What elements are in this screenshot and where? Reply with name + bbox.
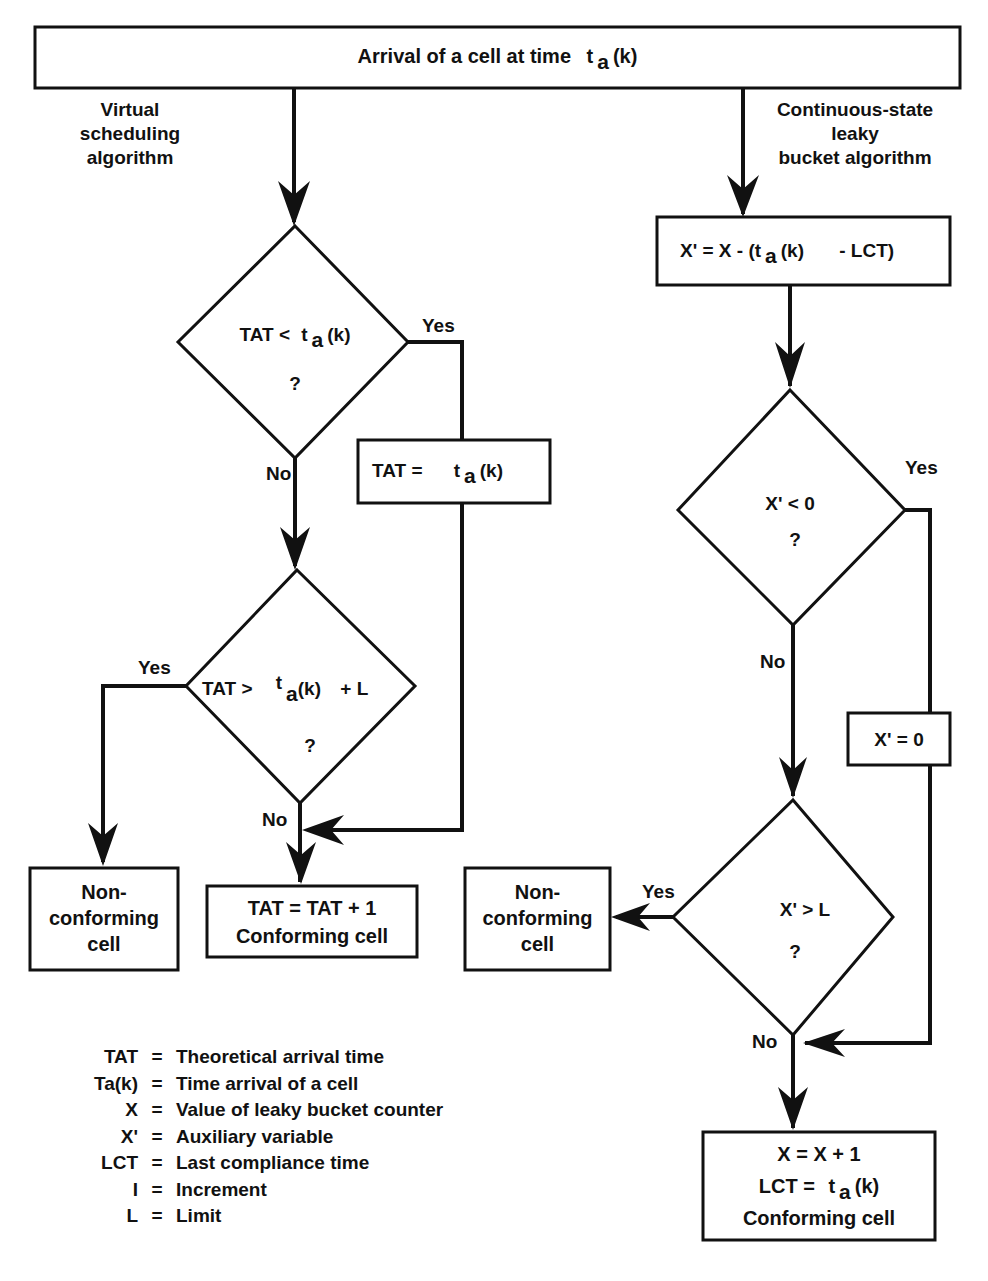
start-label: Arrival of a cell at time ta(k) bbox=[35, 44, 960, 68]
conforming-right-text: X = X + 1 LCT = ta(k) Conforming cell bbox=[703, 1138, 935, 1234]
set-tat-text: TAT = ta(k) bbox=[372, 458, 503, 483]
d4-yes-label: Yes bbox=[642, 880, 675, 904]
branch-label-leaky-bucket: Continuous-state leaky bucket algorithm bbox=[750, 98, 960, 170]
legend-row: LCT=Last compliance time bbox=[60, 1150, 443, 1177]
d3-question: ? bbox=[780, 528, 810, 552]
d2-question: ? bbox=[295, 734, 325, 758]
nonconforming-right-text: Non- conforming cell bbox=[465, 879, 610, 957]
nonconforming-left-text: Non- conforming cell bbox=[30, 879, 178, 957]
edge-d1-yes bbox=[408, 342, 462, 440]
d3-no-label: No bbox=[760, 650, 785, 674]
lct-assign-line: LCT = ta(k) bbox=[703, 1170, 935, 1202]
legend-row: X=Value of leaky bucket counter bbox=[60, 1097, 443, 1124]
legend-row: TAT=Theoretical arrival time bbox=[60, 1044, 443, 1071]
legend-row: X'=Auxiliary variable bbox=[60, 1124, 443, 1151]
edge-set-tat-to-conf bbox=[312, 503, 462, 830]
d3-yes-label: Yes bbox=[905, 456, 938, 480]
legend-row: Ta(k)=Time arrival of a cell bbox=[60, 1071, 443, 1098]
x-prime-zero-text: X' = 0 bbox=[848, 728, 950, 752]
branch-label-virtual-scheduling: Virtual scheduling algorithm bbox=[70, 98, 190, 170]
d1-condition: TAT < ta(k) bbox=[195, 322, 395, 347]
edge-d2-yes bbox=[103, 686, 186, 862]
calc-x-prime-text: X' = X - (ta(k) - LCT) bbox=[680, 238, 894, 263]
d4-no-label: No bbox=[752, 1030, 777, 1054]
legend: TAT=Theoretical arrival time Ta(k)=Time … bbox=[60, 1044, 443, 1230]
d4-condition: X' > L bbox=[745, 898, 865, 922]
d2-condition: TAT > ta(k) + L bbox=[202, 676, 368, 701]
edge-d3-yes bbox=[905, 510, 930, 713]
d4-question: ? bbox=[780, 940, 810, 964]
d2-no-label: No bbox=[262, 808, 287, 832]
d1-yes-label: Yes bbox=[422, 314, 455, 338]
legend-row: L=Limit bbox=[60, 1203, 443, 1230]
d1-question: ? bbox=[280, 372, 310, 396]
d1-no-label: No bbox=[266, 462, 291, 486]
d2-yes-label: Yes bbox=[138, 656, 171, 680]
conforming-left-text: TAT = TAT + 1 Conforming cell bbox=[207, 894, 417, 950]
legend-row: I=Increment bbox=[60, 1177, 443, 1204]
d3-condition: X' < 0 bbox=[730, 492, 850, 516]
